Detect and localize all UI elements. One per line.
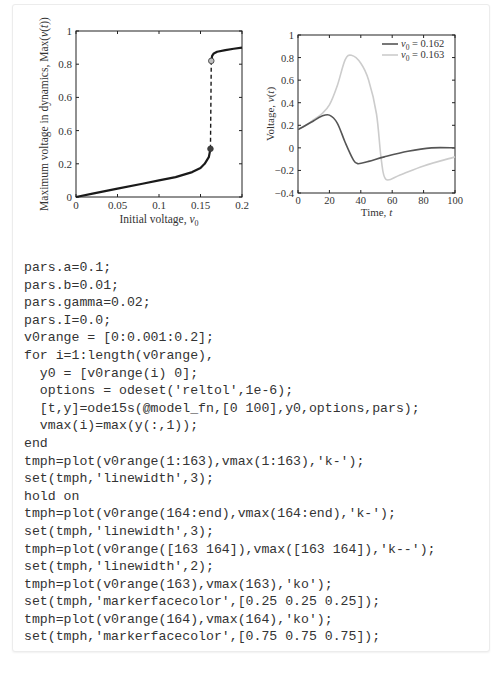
y-tick-label: 0.2 <box>281 120 294 131</box>
code-line: tmph=plot(v0range(164:end),vmax(164:end)… <box>24 505 436 523</box>
code-line: set(tmph,'linewidth',3); <box>24 523 436 541</box>
x-tick-label: 0.2 <box>235 199 249 211</box>
y-tick-label: 0.6 <box>281 75 294 86</box>
vmax-curve <box>76 149 210 197</box>
y-tick-label: 0.8 <box>281 53 294 64</box>
code-line: hold on <box>24 488 436 506</box>
code-line: pars.a=0.1; <box>24 259 436 277</box>
code-line: pars.I=0.0; <box>24 312 436 330</box>
y-tick-label: 0.8 <box>58 58 72 70</box>
code-line: set(tmph,'markerfacecolor',[0.75 0.75 0.… <box>24 628 436 646</box>
x-tick-label: 20 <box>324 195 335 206</box>
marker <box>208 58 214 64</box>
jump-dashed-line <box>210 61 211 149</box>
marker <box>208 146 214 152</box>
y-tick-label: 1 <box>289 30 294 41</box>
x-tick-label: 0 <box>295 195 300 206</box>
y-tick-label: 0.2 <box>58 158 72 170</box>
y-tick-label: 1 <box>67 25 73 37</box>
code-line: pars.gamma=0.02; <box>24 294 436 312</box>
x-tick-label: 80 <box>418 195 429 206</box>
x-tick-label: 0 <box>73 199 79 211</box>
x-tick-label: 0.1 <box>152 199 166 211</box>
chart-max-voltage: 00.050.10.150.200.20.60.60.81Initial vol… <box>0 0 250 230</box>
chart-voltage-time: 020406080100−0.4−0.200.20.40.60.81v0 = 0… <box>250 0 492 230</box>
code-line: set(tmph,'markerfacecolor',[0.25 0.25 0.… <box>24 593 436 611</box>
code-line: tmph=plot(v0range([163 164]),vmax([163 1… <box>24 541 436 559</box>
vmax-curve <box>211 48 242 61</box>
x-axis-label: Time, t <box>361 206 393 218</box>
code-line: [t,y]=ode15s(@model_fn,[0 100],y0,option… <box>24 400 436 418</box>
series-v0-0162 <box>298 115 455 164</box>
x-tick-label: 40 <box>356 195 367 206</box>
code-line: end <box>24 435 436 453</box>
y-axis-label: Maximum voltage in dynamics, Max(v(t)) <box>38 17 51 211</box>
code-line: tmph=plot(v0range(164),vmax(164),'ko'); <box>24 611 436 629</box>
x-tick-label: 0.15 <box>191 199 211 211</box>
code-line: tmph=plot(v0range(1:163),vmax(1:163),'k-… <box>24 453 436 471</box>
y-tick-label: 0.6 <box>58 125 72 137</box>
code-line: vmax(i)=max(y(:,1)); <box>24 417 436 435</box>
x-tick-label: 0.05 <box>108 199 128 211</box>
code-line: options = odeset('reltol',1e-6); <box>24 382 436 400</box>
code-line: for i=1:length(v0range), <box>24 347 436 365</box>
code-block: pars.a=0.1;pars.b=0.01;pars.gamma=0.02;p… <box>24 259 436 646</box>
y-tick-label: 0.4 <box>281 98 295 109</box>
y-tick-label: −0.2 <box>275 165 294 176</box>
y-tick-label: 0 <box>289 143 294 154</box>
x-axis-label: Initial voltage, v0 <box>119 213 198 228</box>
y-tick-label: −0.4 <box>275 188 295 199</box>
code-line: set(tmph,'linewidth',2); <box>24 558 436 576</box>
code-line: v0range = [0:0.001:0.2]; <box>24 329 436 347</box>
code-line: pars.b=0.01; <box>24 277 436 295</box>
y-axis-label: Voltage, v(t) <box>264 87 277 142</box>
series-v0-0163 <box>298 55 455 180</box>
y-tick-label: 0.6 <box>58 91 72 103</box>
y-tick-label: 0 <box>67 191 73 203</box>
x-tick-label: 60 <box>387 195 398 206</box>
code-line: tmph=plot(v0range(163),vmax(163),'ko'); <box>24 576 436 594</box>
x-tick-label: 100 <box>447 195 463 206</box>
plot-frame <box>76 31 242 197</box>
code-line: set(tmph,'linewidth',3); <box>24 470 436 488</box>
code-line: y0 = [v0range(i) 0]; <box>24 365 436 383</box>
